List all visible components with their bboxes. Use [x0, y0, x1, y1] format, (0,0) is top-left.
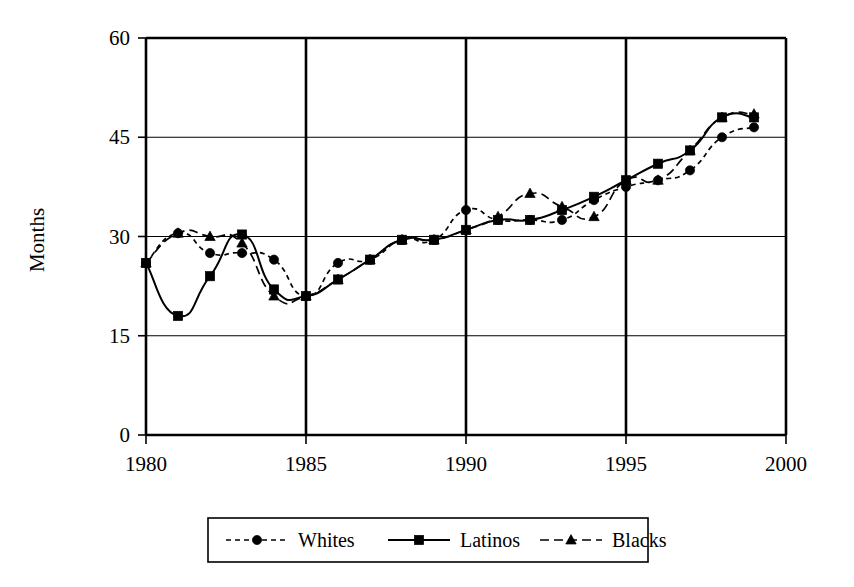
- series-whites: [141, 123, 758, 301]
- x-tick-label-1980: 1980: [125, 452, 167, 476]
- axis-tickmarks: [138, 38, 786, 444]
- x-tick-label-2000: 2000: [765, 452, 807, 476]
- chart-container: 015304560 19801985199019952000 Months Wh…: [0, 0, 854, 587]
- marker-whites-1997: [685, 166, 694, 175]
- marker-whites-1990: [461, 205, 470, 214]
- legend-entries: WhitesLatinosBlacks: [226, 529, 667, 551]
- marker-latinos-1992: [525, 215, 534, 224]
- marker-latinos-1994: [589, 192, 598, 201]
- marker-whites-1993: [557, 215, 566, 224]
- series-line-whites: [146, 127, 754, 296]
- chart-legend: WhitesLatinosBlacks: [208, 518, 667, 562]
- series-line-latinos: [146, 113, 754, 316]
- legend-square-marker: [414, 535, 423, 544]
- y-tick-label-0: 0: [120, 423, 131, 447]
- marker-blacks-1994: [589, 211, 599, 220]
- x-tick-label-1985: 1985: [285, 452, 327, 476]
- legend-item-whites[interactable]: Whites: [226, 529, 355, 551]
- legend-item-latinos[interactable]: Latinos: [388, 529, 520, 551]
- legend-label-latinos: Latinos: [460, 529, 520, 551]
- x-tick-label-1995: 1995: [605, 452, 647, 476]
- line-chart-figure: 015304560 19801985199019952000 Months Wh…: [0, 0, 854, 587]
- series-line-blacks: [146, 112, 754, 304]
- marker-whites-1984: [269, 255, 278, 264]
- marker-latinos-1981: [173, 311, 182, 320]
- y-axis-title: Months: [25, 208, 49, 272]
- x-tick-label-1990: 1990: [445, 452, 487, 476]
- y-tick-label-15: 15: [109, 324, 130, 348]
- marker-whites-1982: [205, 248, 214, 257]
- legend-label-blacks: Blacks: [612, 529, 667, 551]
- marker-latinos-1982: [205, 272, 214, 281]
- legend-item-blacks[interactable]: Blacks: [540, 529, 667, 551]
- data-series-layer: [141, 109, 759, 321]
- series-latinos: [141, 113, 758, 321]
- legend-circle-marker: [252, 535, 261, 544]
- legend-label-whites: Whites: [298, 529, 355, 551]
- y-axis-tick-labels: 015304560: [109, 26, 130, 447]
- marker-whites-1998: [717, 133, 726, 142]
- series-blacks: [141, 109, 759, 304]
- marker-whites-1999: [749, 123, 758, 132]
- marker-whites-1983: [237, 248, 246, 257]
- y-tick-label-45: 45: [109, 125, 130, 149]
- marker-latinos-1996: [653, 159, 662, 168]
- x-axis-tick-labels: 19801985199019952000: [125, 452, 807, 476]
- marker-whites-1986: [333, 258, 342, 267]
- y-tick-label-60: 60: [109, 26, 130, 50]
- y-tick-label-30: 30: [109, 225, 130, 249]
